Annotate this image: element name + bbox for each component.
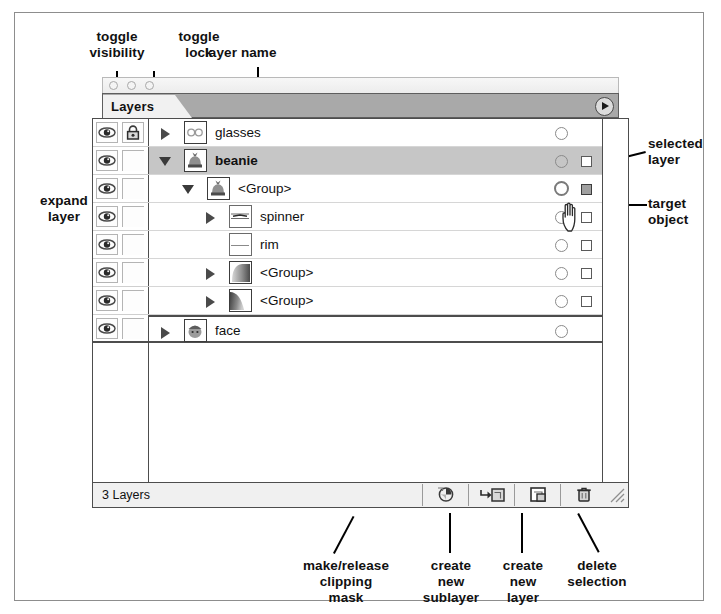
selected-layer-square[interactable] (581, 184, 592, 195)
selected-layer-square[interactable] (581, 296, 592, 307)
beanie-thumbnail (184, 149, 207, 172)
target-object-circle[interactable] (555, 325, 568, 338)
layer-name-label: face (215, 323, 241, 338)
table-row[interactable]: <Group> (149, 175, 602, 203)
palette-tab-bar: Layers (102, 93, 619, 118)
toggle-lock-padlock-icon[interactable] (122, 122, 144, 143)
target-object-circle[interactable] (555, 239, 568, 252)
tab-layers[interactable]: Layers (103, 95, 175, 118)
annotation-create-new-layer: create new layer (492, 558, 554, 606)
leader-delete-selection (577, 513, 599, 553)
vertical-scrollbar[interactable] (602, 119, 628, 507)
gradient-thumbnail-b (229, 289, 252, 312)
gutter-row (93, 119, 149, 147)
table-row[interactable]: spinner (149, 203, 602, 231)
layer-rows-area: glasses beanie (149, 119, 602, 507)
annotation-selected-layer: selected layer (648, 136, 721, 168)
gutter-row (93, 231, 149, 259)
visibility-lock-gutter (93, 119, 149, 507)
selected-layer-square[interactable] (581, 240, 592, 251)
toggle-visibility-eye-icon[interactable] (96, 262, 118, 283)
toggle-visibility-eye-icon[interactable] (96, 290, 118, 311)
annotation-make-release-clipping-mask: make/release clipping mask (286, 558, 406, 606)
toggle-visibility-eye-icon[interactable] (96, 178, 118, 199)
expand-layer-triangle-right-icon[interactable] (161, 327, 170, 339)
expand-layer-triangle-right-icon[interactable] (206, 268, 215, 280)
palette-menu-triangle-right-icon[interactable] (595, 97, 614, 116)
annotation-toggle-visibility: toggle visibility (73, 29, 161, 61)
gutter-row (93, 259, 149, 287)
toggle-lock-cell[interactable] (122, 150, 144, 171)
gradient-thumbnail-a (229, 261, 252, 284)
annotation-layer-name: layer name (205, 45, 345, 61)
delete-selection-button[interactable] (560, 484, 606, 506)
annotation-delete-selection: delete selection (552, 558, 642, 590)
rim-thumbnail (229, 233, 252, 256)
resize-grip-icon[interactable] (607, 485, 627, 505)
tab-layers-label: Layers (111, 99, 154, 114)
layer-name-label: <Group> (260, 293, 313, 308)
toggle-lock-cell[interactable] (122, 262, 144, 283)
toggle-visibility-eye-icon[interactable] (96, 318, 118, 339)
target-object-circle[interactable] (555, 267, 568, 280)
selected-layer-square[interactable] (581, 268, 592, 279)
collapse-dot-icon[interactable] (145, 81, 154, 90)
hand-cursor-icon (560, 200, 586, 234)
expand-layer-triangle-right-icon[interactable] (161, 128, 170, 140)
table-row[interactable]: glasses (149, 119, 602, 147)
close-dot-icon[interactable] (109, 81, 118, 90)
palette-footer: 3 Layers (93, 482, 628, 507)
toggle-lock-cell[interactable] (122, 290, 144, 311)
layer-name-label: spinner (260, 209, 304, 224)
gutter-row (93, 175, 149, 203)
expand-layer-triangle-right-icon[interactable] (206, 296, 215, 308)
toggle-lock-cell[interactable] (122, 206, 144, 227)
layer-name-label: beanie (215, 153, 258, 168)
annotation-create-new-sublayer: create new sublayer (406, 558, 496, 606)
gutter-row (93, 203, 149, 231)
toggle-lock-cell[interactable] (122, 234, 144, 255)
table-row[interactable]: face (149, 315, 602, 343)
layer-name-label: <Group> (238, 181, 291, 196)
target-object-circle[interactable] (555, 155, 568, 168)
expand-layer-triangle-down-icon[interactable] (159, 157, 171, 166)
table-row[interactable]: <Group> (149, 259, 602, 287)
table-row[interactable]: <Group> (149, 287, 602, 315)
glasses-thumbnail (184, 121, 207, 144)
create-new-layer-button[interactable] (514, 484, 560, 506)
leader-new-layer (521, 513, 523, 553)
target-object-circle[interactable] (555, 295, 568, 308)
target-object-circle-active[interactable] (554, 181, 569, 196)
toggle-visibility-eye-icon[interactable] (96, 150, 118, 171)
toggle-lock-cell[interactable] (122, 318, 144, 339)
face-thumbnail (184, 319, 207, 342)
gutter-row (93, 147, 149, 175)
table-row[interactable]: rim (149, 231, 602, 259)
zoom-dot-icon[interactable] (127, 81, 136, 90)
layer-name-label: rim (260, 237, 279, 252)
layer-name-label: <Group> (260, 265, 313, 280)
layer-count-label: 3 Layers (102, 488, 150, 502)
table-row[interactable]: beanie (149, 147, 602, 175)
layer-name-label: glasses (215, 125, 261, 140)
annotation-target-object: target object (648, 196, 721, 228)
create-new-sublayer-button[interactable] (468, 484, 514, 506)
expand-layer-triangle-right-icon[interactable] (206, 212, 215, 224)
selected-layer-square[interactable] (581, 156, 592, 167)
toggle-visibility-eye-icon[interactable] (96, 234, 118, 255)
gutter-row (93, 315, 149, 343)
spinner-thumbnail (229, 205, 252, 228)
toggle-visibility-eye-icon[interactable] (96, 122, 118, 143)
target-object-circle[interactable] (555, 127, 568, 140)
leader-clipping-mask (333, 516, 354, 554)
make-release-clipping-mask-button[interactable] (422, 484, 468, 506)
layers-palette-window: Layers (92, 77, 629, 508)
toggle-visibility-eye-icon[interactable] (96, 206, 118, 227)
palette-title-strip (102, 77, 619, 93)
toggle-lock-cell[interactable] (122, 178, 144, 199)
palette-body: glasses beanie (92, 118, 629, 508)
leader-new-sublayer (449, 513, 451, 553)
beanie-thumbnail (207, 177, 230, 200)
gutter-row (93, 287, 149, 315)
expand-layer-triangle-down-icon[interactable] (182, 185, 194, 194)
